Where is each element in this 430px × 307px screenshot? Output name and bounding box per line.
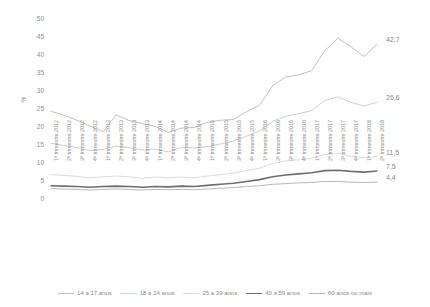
legend-item[interactable]: 18 a 24 anos [121, 290, 175, 297]
x-axis-tick-label: 4º trimestre 2012 [92, 120, 98, 200]
legend-label: 25 a 39 anos [202, 290, 237, 297]
legend-item[interactable]: 40 a 59 anos [246, 290, 300, 297]
y-axis-tick-label: 35 [26, 69, 44, 76]
x-axis-tick-label: 2º trimestre 2017 [327, 120, 333, 200]
y-axis-tick-label: 5 [26, 177, 44, 184]
x-axis-tick-label: 4º trimestre 2013 [144, 120, 150, 200]
legend-swatch [246, 293, 262, 294]
x-axis-tick-label: 3º trimestre 2017 [340, 120, 346, 200]
y-axis-tick-label: 10 [26, 159, 44, 166]
line-chart: % 50454035302520151050 42,726,611,57,54,… [0, 0, 430, 307]
x-axis-tick-label: 3º trimestre 2013 [131, 120, 137, 200]
legend-item[interactable]: 14 a 17 anos [58, 290, 112, 297]
series-line [51, 38, 377, 132]
series-end-value-label: 11,5 [386, 149, 399, 157]
x-axis-tick-label: 2º trimestre 2012 [66, 120, 72, 200]
series-end-value-label: 42,7 [386, 36, 400, 44]
x-axis-tick-label: 4º trimestre 2014 [196, 120, 202, 200]
y-axis-tick-label: 50 [26, 15, 44, 22]
x-axis-tick-label: 1º trimestre 2012 [53, 120, 59, 200]
legend-swatch [183, 293, 199, 294]
series-end-value-label: 4,4 [386, 174, 396, 182]
x-axis-tick-label: 4º trimestre 2016 [301, 120, 307, 200]
legend-label: 40 a 59 anos [265, 290, 300, 297]
x-axis-tick-label: 1º trimestre 2014 [157, 120, 163, 200]
x-axis-tick-label: 1º trimestre 2017 [314, 120, 320, 200]
x-axis-tick-label: 3º trimestre 2012 [79, 120, 85, 200]
y-axis-tick-label: 30 [26, 87, 44, 94]
x-axis-tick-label: 1º trimestre 2018 [366, 120, 372, 200]
legend-item[interactable]: 25 a 39 anos [183, 290, 237, 297]
y-axis-tick-label: 45 [26, 33, 44, 40]
legend-swatch [309, 293, 325, 294]
y-axis-tick-label: 25 [26, 105, 44, 112]
legend-item[interactable]: 60 anos ou mais [309, 290, 372, 297]
y-axis-tick-label: 15 [26, 141, 44, 148]
legend-label: 60 anos ou mais [328, 290, 372, 297]
legend-label: 18 a 24 anos [140, 290, 175, 297]
x-axis-tick-labels: 1º trimestre 20122º trimestre 20123º tri… [48, 200, 380, 280]
x-axis-tick-label: 2º trimestre 2018 [379, 120, 385, 200]
series-end-value-label: 7,5 [386, 163, 396, 171]
x-axis-tick-label: 2º trimestre 2016 [275, 120, 281, 200]
x-axis-tick-label: 3º trimestre 2015 [236, 120, 242, 200]
legend-swatch [121, 293, 137, 294]
y-axis-tick-label: 20 [26, 123, 44, 130]
legend-label: 14 a 17 anos [77, 290, 112, 297]
chart-legend: 14 a 17 anos18 a 24 anos25 a 39 anos40 a… [0, 286, 430, 300]
x-axis-tick-label: 2º trimestre 2015 [223, 120, 229, 200]
x-axis-tick-label: 4º trimestre 2017 [353, 120, 359, 200]
y-axis-tick-label: 0 [26, 195, 44, 202]
x-axis-tick-label: 2º trimestre 2013 [118, 120, 124, 200]
x-axis-tick-label: 3º trimestre 2014 [183, 120, 189, 200]
x-axis-tick-label: 4º trimestre 2015 [249, 120, 255, 200]
x-axis-tick-label: 1º trimestre 2016 [262, 120, 268, 200]
x-axis-tick-label: 2º trimestre 2014 [170, 120, 176, 200]
legend-swatch [58, 293, 74, 294]
x-axis-tick-label: 1º trimestre 2015 [209, 120, 215, 200]
y-axis-tick-label: 40 [26, 51, 44, 58]
x-axis-tick-label: 1º trimestre 2013 [105, 120, 111, 200]
series-end-value-label: 26,6 [386, 94, 400, 102]
x-axis-tick-label: 3º trimestre 2016 [288, 120, 294, 200]
